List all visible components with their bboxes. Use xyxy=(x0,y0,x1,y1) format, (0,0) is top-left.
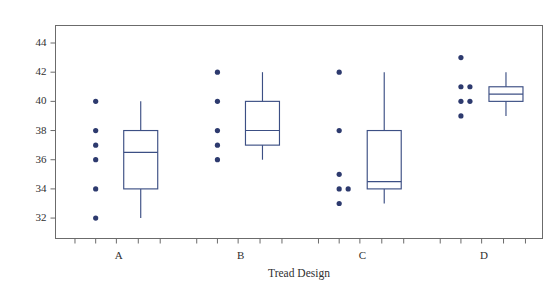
series-group-D xyxy=(458,55,523,119)
data-point-D-41 xyxy=(467,84,472,89)
box-B xyxy=(245,101,279,145)
data-point-B-42 xyxy=(215,70,220,75)
data-point-C-38 xyxy=(337,128,342,133)
y-tick-label-32: 32 xyxy=(36,211,47,223)
series-group-C xyxy=(337,70,402,207)
series-group-A xyxy=(93,99,158,221)
data-point-C-35 xyxy=(337,172,342,177)
y-tick-label-44: 44 xyxy=(36,36,48,48)
data-point-A-32 xyxy=(93,215,98,220)
x-axis: ABCD xyxy=(75,239,525,261)
y-axis: 32343638404244 xyxy=(36,36,56,223)
x-tick-label-A: A xyxy=(115,249,123,261)
data-point-B-36 xyxy=(215,157,220,162)
x-tick-label-B: B xyxy=(237,249,244,261)
box-A xyxy=(124,131,158,189)
y-tick-label-36: 36 xyxy=(36,153,48,165)
data-point-C-42 xyxy=(337,70,342,75)
series-group-B xyxy=(215,70,280,163)
data-point-A-34 xyxy=(93,186,98,191)
boxplot-chart: 32343638404244 ABCD Tread Design xyxy=(0,0,559,302)
x-tick-label-C: C xyxy=(359,249,366,261)
y-tick-label-38: 38 xyxy=(36,124,48,136)
series-layer xyxy=(93,55,523,221)
data-point-D-39 xyxy=(458,113,463,118)
box-C xyxy=(367,131,401,189)
data-point-C-34 xyxy=(337,186,342,191)
data-point-B-38 xyxy=(215,128,220,133)
y-tick-label-42: 42 xyxy=(36,65,47,77)
data-point-D-40 xyxy=(467,99,472,104)
y-tick-label-40: 40 xyxy=(36,94,48,106)
data-point-A-36 xyxy=(93,157,98,162)
y-tick-label-34: 34 xyxy=(36,182,48,194)
data-point-C-34 xyxy=(346,186,351,191)
plot-frame xyxy=(56,26,543,239)
data-point-B-37 xyxy=(215,143,220,148)
data-point-A-38 xyxy=(93,128,98,133)
x-tick-label-D: D xyxy=(480,249,488,261)
data-point-A-40 xyxy=(93,99,98,104)
data-point-D-40 xyxy=(458,99,463,104)
data-point-C-33 xyxy=(337,201,342,206)
x-axis-title: Tread Design xyxy=(268,267,330,280)
data-point-D-43 xyxy=(458,55,463,60)
data-point-A-37 xyxy=(93,143,98,148)
data-point-D-41 xyxy=(458,84,463,89)
data-point-B-40 xyxy=(215,99,220,104)
plot-canvas: 32343638404244 ABCD Tread Design xyxy=(0,0,559,302)
